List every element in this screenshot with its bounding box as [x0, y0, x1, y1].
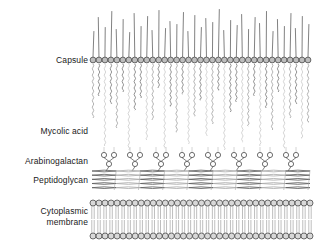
peptidoglycan-strand [140, 183, 164, 185]
mycolic-acid-chain [146, 64, 148, 140]
arabinogalactan-fork-circle [127, 152, 132, 157]
membrane-head-inner [301, 233, 307, 239]
arabinogalactan-fork-arm [104, 158, 109, 162]
mycolic-acid-chain [224, 64, 226, 150]
membrane-head-inner [229, 233, 235, 239]
mycolic-acid-chain [212, 64, 214, 124]
mycolic-acid-chain [128, 64, 130, 150]
peptidoglycan-strand [262, 183, 286, 185]
peptidoglycan-crosslink [260, 170, 262, 190]
mycolic-acid-chain [271, 64, 273, 130]
arabinogalactan-stem-circle [184, 161, 189, 166]
mycolic-acid-chain [283, 64, 285, 148]
capsule-head [275, 57, 281, 63]
peptidoglycan-strand [92, 183, 116, 185]
membrane-head-inner [156, 233, 162, 239]
membrane-head-inner [186, 233, 192, 239]
peptidoglycan-strand [116, 187, 140, 189]
peptidoglycan-strand [92, 170, 116, 172]
membrane-head-inner [223, 233, 229, 239]
capsule-stalk [152, 30, 153, 57]
arabinogalactan-fork-circle [153, 152, 158, 157]
mycolic-acid-chain [188, 64, 190, 144]
capsule-head [210, 57, 216, 63]
peptidoglycan-strand [92, 174, 116, 176]
mycolic-acid-chain [164, 64, 166, 148]
mycolic-acid-chain [122, 64, 124, 92]
peptidoglycan-strand [165, 187, 189, 189]
membrane-head-outer [199, 200, 205, 206]
arabinogalactan-fork-arm [187, 158, 192, 162]
peptidoglycan-strand [213, 183, 237, 185]
membrane-head-outer [295, 200, 301, 206]
capsule-stalk [260, 23, 261, 57]
peptidoglycan-crosslink [308, 170, 310, 190]
membrane-head-outer [90, 200, 96, 206]
membrane-head-outer [283, 200, 289, 206]
arabinogalactan-fork-circle [215, 152, 220, 157]
arabinogalactan-fork-circle [189, 152, 194, 157]
peptidoglycan-strand [262, 174, 286, 176]
arabinogalactan-fork-circle [163, 152, 168, 157]
membrane-head-inner [192, 233, 198, 239]
peptidoglycan-strand [140, 187, 164, 189]
arabinogalactan-fork-arm [182, 158, 187, 162]
peptidoglycan-strand [286, 178, 310, 180]
arabinogalactan-fork-arm [130, 158, 135, 162]
arabinogalactan-stem-circle [158, 161, 163, 166]
mycolic-acid-chain [236, 64, 238, 102]
arabinogalactan-fork-circle [137, 152, 142, 157]
membrane-head-inner [108, 233, 114, 239]
peptidoglycan-strand [116, 178, 140, 180]
mycolic-acid-chain [248, 64, 250, 126]
capsule-head [120, 57, 126, 63]
mycolic-acid-chain [152, 64, 154, 120]
membrane-head-outer [265, 200, 271, 206]
capsule-stalk [116, 29, 117, 57]
arabinogalactan-fork-arm [291, 158, 296, 162]
membrane-head-inner [253, 233, 259, 239]
peptidoglycan-strand [262, 170, 286, 172]
figure-canvas: Capsule Mycolic acid Arabinogalactan Pep… [0, 0, 329, 251]
peptidoglycan-crosslink [138, 170, 140, 190]
membrane-head-inner [132, 233, 138, 239]
peptidoglycan-strand [189, 183, 213, 185]
peptidoglycan-strand [165, 178, 189, 180]
membrane-head-inner [271, 233, 277, 239]
capsule-head [287, 57, 293, 63]
membrane-head-outer [144, 200, 150, 206]
capsule-stalk [98, 17, 99, 57]
mycolic-acid-chain [110, 64, 112, 104]
arabinogalactan-stem-circle [132, 161, 137, 166]
mycolic-acid-chain [194, 64, 196, 116]
peptidoglycan-strand [286, 170, 310, 172]
membrane-head-outer [289, 200, 295, 206]
membrane-head-inner [205, 233, 211, 239]
mycolic-acid-chain [98, 64, 100, 96]
capsule-stalk [254, 17, 255, 57]
capsule-head [293, 57, 299, 63]
mycolic-acid-chain [92, 64, 94, 118]
mycolic-acid-chain [134, 64, 136, 110]
capsule-head-group [90, 57, 311, 63]
peptidoglycan-crosslink [163, 170, 165, 190]
peptidoglycan-strand [213, 174, 237, 176]
mycolic-acid-chain [259, 64, 261, 146]
membrane-head-inner [211, 233, 217, 239]
arabinogalactan-fork-circle [283, 152, 288, 157]
membrane-head-outer [301, 200, 307, 206]
capsule-head [198, 57, 204, 63]
membrane-head-outer [126, 200, 132, 206]
capsule-head [156, 57, 162, 63]
capsule-head [305, 57, 311, 63]
membrane-head-inner [259, 233, 265, 239]
membrane-head-outer [277, 200, 283, 206]
arabinogalactan-fork-circle [205, 152, 210, 157]
membrane-head-inner [307, 233, 313, 239]
membrane-head-inner [265, 233, 271, 239]
arabinogalactan-stem-circle [236, 161, 241, 166]
membrane-head-outer [205, 200, 211, 206]
membrane-head-outer [307, 200, 313, 206]
capsule-stalk [277, 19, 278, 57]
membrane-head-outer [138, 200, 144, 206]
